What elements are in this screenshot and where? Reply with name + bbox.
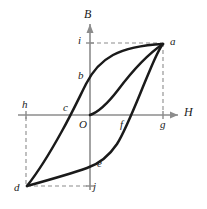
- b-axis-arrow-icon: [87, 24, 94, 33]
- point-label-g: g: [160, 119, 166, 130]
- point-label-b: b: [78, 70, 84, 81]
- point-label-c: c: [63, 102, 68, 113]
- point-label-f: f: [120, 119, 123, 130]
- h-axis-arrow-icon: [170, 112, 178, 119]
- hysteresis-loop-figure: B H O a b c d e f g h i j: [0, 0, 207, 209]
- hysteresis-loop-diagram: [0, 0, 207, 209]
- origin-label: O: [79, 119, 87, 130]
- initial-magnetization-curve: [90, 44, 163, 115]
- point-label-e: e: [97, 158, 102, 169]
- point-label-a: a: [170, 36, 176, 47]
- point-label-j: j: [93, 181, 96, 192]
- point-label-i: i: [78, 35, 81, 46]
- b-axis-label: B: [84, 8, 91, 20]
- point-label-h: h: [22, 99, 28, 110]
- point-label-d: d: [14, 182, 20, 193]
- h-axis-label: H: [184, 106, 193, 118]
